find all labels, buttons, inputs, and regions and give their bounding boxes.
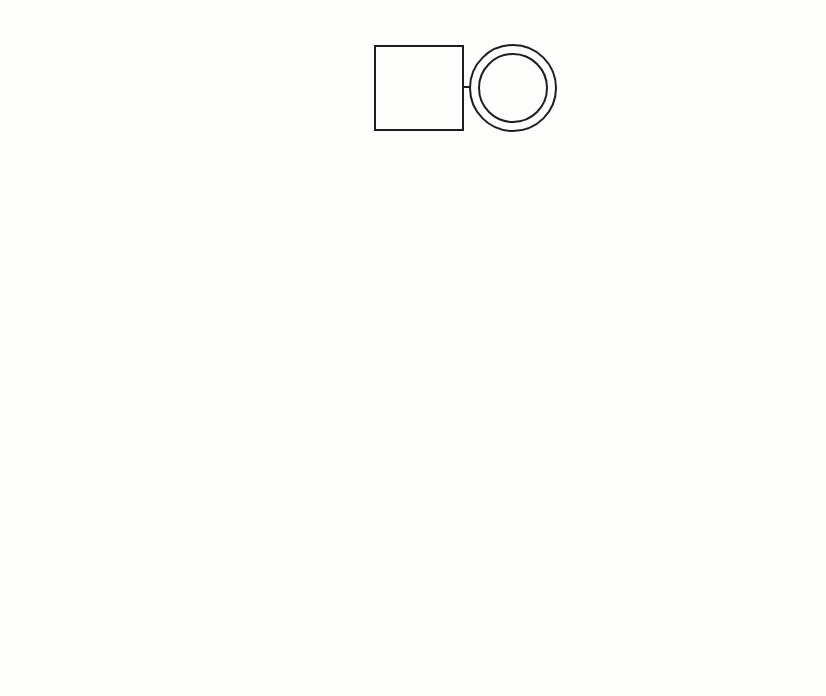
carrie-inner-circle (479, 54, 547, 122)
george-male-square (375, 46, 463, 130)
genogram-diagram (0, 0, 826, 696)
carrie-outer-circle (470, 45, 556, 131)
